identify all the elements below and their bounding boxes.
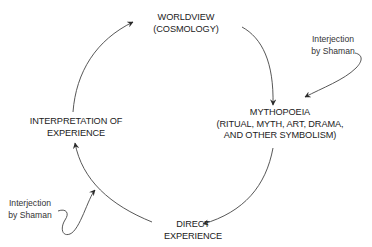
arrow-mythopoeia-to-direct-experience <box>203 148 273 224</box>
arrow-direct-experience-to-interpretation <box>75 143 152 222</box>
annotation-shaman-left-line-2: by Shaman <box>8 210 51 222</box>
node-direct-experience-line-2: EXPERIENCE <box>164 231 222 243</box>
annotation-shaman-right-line-1: Interjection <box>311 34 354 46</box>
node-mythopoeia: MYTHOPOEIA (RITUAL, MYTH, ART, DRAMA, AN… <box>217 107 344 142</box>
node-interpretation: INTERPRETATION OF EXPERIENCE <box>30 116 122 139</box>
annotation-shaman-right: Interjection by Shaman <box>311 34 354 57</box>
annotation-shaman-left-line-1: Interjection <box>8 198 51 210</box>
arrow-interpretation-to-worldview <box>73 22 133 112</box>
node-mythopoeia-line-2: (RITUAL, MYTH, ART, DRAMA, <box>217 119 344 131</box>
node-mythopoeia-line-3: AND OTHER SYMBOLISM) <box>217 130 344 142</box>
node-worldview-line-2: (COSMOLOGY) <box>153 24 218 36</box>
cycle-diagram: WORLDVIEW (COSMOLOGY) MYTHOPOEIA (RITUAL… <box>0 0 372 247</box>
node-direct-experience: DIRECT EXPERIENCE <box>164 219 222 242</box>
node-worldview: WORLDVIEW (COSMOLOGY) <box>153 12 218 35</box>
node-direct-experience-line-1: DIRECT <box>164 219 222 231</box>
annotation-shaman-right-line-2: by Shaman <box>311 46 354 58</box>
node-mythopoeia-line-1: MYTHOPOEIA <box>217 107 344 119</box>
arrow-worldview-to-mythopoeia <box>242 27 273 105</box>
node-worldview-line-1: WORLDVIEW <box>153 12 218 24</box>
arrow-shaman-interjection-right <box>305 53 361 97</box>
arrow-shaman-interjection-left <box>58 190 95 235</box>
node-interpretation-line-1: INTERPRETATION OF <box>30 116 122 128</box>
node-interpretation-line-2: EXPERIENCE <box>30 128 122 140</box>
annotation-shaman-left: Interjection by Shaman <box>8 198 51 221</box>
